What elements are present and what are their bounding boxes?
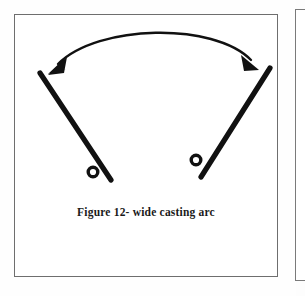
adjacent-frame-border — [295, 9, 305, 281]
scanned-page: Figure 12- wide casting arc — [0, 0, 305, 296]
figure-caption: Figure 12- wide casting arc — [14, 206, 278, 218]
figure-frame-border — [14, 14, 278, 277]
